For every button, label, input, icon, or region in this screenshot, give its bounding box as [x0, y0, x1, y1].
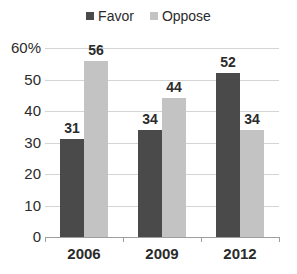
bar-oppose-2012	[240, 130, 264, 237]
y-axis-tick-label: 50	[0, 72, 41, 87]
legend-swatch-oppose-icon	[150, 12, 158, 20]
y-axis-labels: 0102030405060%	[0, 0, 41, 274]
x-axis-tick	[201, 237, 202, 242]
chart-legend: Favor Oppose	[0, 9, 297, 23]
x-axis-tick	[279, 237, 280, 242]
bar-value-label: 56	[76, 43, 116, 57]
bar-favor-2012	[216, 73, 240, 237]
legend-label-favor: Favor	[98, 9, 134, 23]
bar-oppose-2009	[162, 98, 186, 237]
x-axis-label-2006: 2006	[45, 246, 123, 262]
y-axis-tick-label: 10	[0, 198, 41, 213]
bar-chart: Favor Oppose 0102030405060% 315620063444…	[0, 0, 297, 274]
y-axis-tick-label: 20	[0, 166, 41, 181]
bar-oppose-2006	[84, 61, 108, 237]
y-axis-tick-label: 30	[0, 135, 41, 150]
legend-label-oppose: Oppose	[162, 9, 211, 23]
legend-swatch-favor-icon	[86, 12, 94, 20]
bar-favor-2009	[138, 130, 162, 237]
bar-value-label: 34	[232, 112, 272, 126]
y-axis-tick-label: 40	[0, 103, 41, 118]
x-axis-tick	[45, 237, 46, 242]
x-axis-label-2012: 2012	[201, 246, 279, 262]
y-axis-tick-label: 0	[0, 229, 41, 244]
x-axis-label-2009: 2009	[123, 246, 201, 262]
x-axis-tick	[123, 237, 124, 242]
x-axis-line	[45, 237, 279, 238]
legend-entry-oppose: Oppose	[150, 9, 211, 23]
legend-entry-favor: Favor	[86, 9, 134, 23]
bar-value-label: 44	[154, 80, 194, 94]
bar-value-label: 52	[208, 55, 248, 69]
bar-favor-2006	[60, 139, 84, 237]
y-axis-tick-label: 60%	[0, 40, 41, 55]
